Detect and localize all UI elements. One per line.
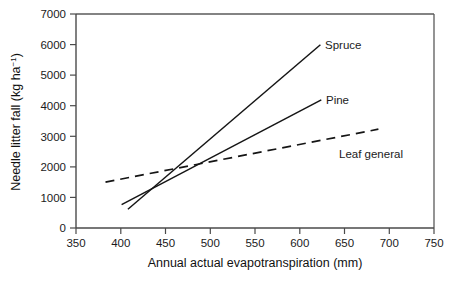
y-tick-label-5000: 5000 bbox=[40, 69, 66, 81]
y-tick-label-0: 0 bbox=[60, 222, 66, 234]
series-labels-group: Spruce Pine Leaf general bbox=[325, 39, 403, 160]
y-axis-title: Needle litter fall (kg ha−1) bbox=[9, 53, 23, 191]
y-axis-title-main: Needle litter fall (kg ha bbox=[9, 66, 23, 190]
x-axis-title: Annual actual evapotranspiration (mm) bbox=[148, 256, 363, 270]
y-axis-tick-labels: 0 1000 2000 3000 4000 5000 6000 7000 bbox=[40, 8, 66, 234]
y-tick-label-3000: 3000 bbox=[40, 131, 66, 143]
series-label-pine: Pine bbox=[326, 94, 349, 106]
x-axis-ticks bbox=[76, 228, 434, 234]
y-tick-label-2000: 2000 bbox=[40, 161, 66, 173]
x-tick-label-450: 450 bbox=[156, 237, 175, 249]
series-line-spruce bbox=[128, 45, 321, 210]
x-tick-label-600: 600 bbox=[290, 237, 309, 249]
y-tick-label-6000: 6000 bbox=[40, 39, 66, 51]
x-tick-label-650: 650 bbox=[335, 237, 354, 249]
data-series-group bbox=[106, 45, 379, 210]
x-tick-label-350: 350 bbox=[66, 237, 85, 249]
y-axis-ticks bbox=[70, 14, 76, 228]
x-tick-label-500: 500 bbox=[201, 237, 220, 249]
x-tick-label-550: 550 bbox=[245, 237, 264, 249]
series-line-leaf-general bbox=[106, 129, 379, 182]
y-axis-title-close: ) bbox=[9, 53, 23, 57]
y-axis-title-group: Needle litter fall (kg ha−1) bbox=[9, 53, 23, 191]
x-tick-label-750: 750 bbox=[424, 237, 443, 249]
plot-frame bbox=[76, 14, 434, 228]
y-tick-label-4000: 4000 bbox=[40, 100, 66, 112]
x-tick-label-700: 700 bbox=[380, 237, 399, 249]
chart-figure: 0 1000 2000 3000 4000 5000 6000 7000 350… bbox=[0, 0, 454, 281]
series-label-spruce: Spruce bbox=[325, 39, 361, 51]
x-tick-label-400: 400 bbox=[111, 237, 130, 249]
series-line-pine bbox=[122, 100, 322, 205]
needle-litter-fall-chart: 0 1000 2000 3000 4000 5000 6000 7000 350… bbox=[0, 0, 454, 281]
series-label-leaf-general: Leaf general bbox=[339, 148, 403, 160]
x-axis-tick-labels: 350 400 450 500 550 600 650 700 750 bbox=[66, 237, 443, 249]
y-tick-label-7000: 7000 bbox=[40, 8, 66, 20]
y-tick-label-1000: 1000 bbox=[40, 192, 66, 204]
